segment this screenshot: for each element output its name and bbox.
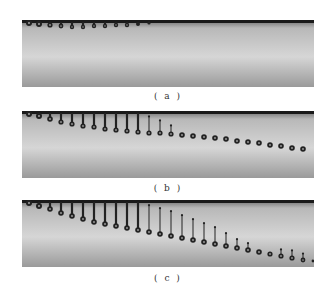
droplet: [36, 21, 42, 27]
caption-b: ( b ): [0, 183, 336, 193]
droplet: [278, 143, 284, 149]
droplet: [300, 146, 306, 152]
droplet: [136, 22, 140, 26]
panel-c-image: [22, 200, 314, 267]
droplet: [26, 111, 32, 117]
droplet: [267, 142, 273, 148]
caption-a: ( a ): [0, 91, 336, 101]
droplet: [26, 200, 32, 206]
droplet-sequence-b: [22, 111, 314, 178]
droplet: [190, 133, 196, 139]
droplet: [245, 139, 251, 145]
droplet: [289, 145, 295, 151]
panel-b-image: [22, 111, 314, 178]
caption-c: ( c ): [0, 273, 336, 283]
droplet: [256, 140, 262, 146]
droplet: [267, 251, 272, 256]
droplet: [256, 249, 262, 255]
droplet: [223, 136, 229, 142]
droplet: [147, 21, 150, 24]
droplet: [201, 134, 207, 140]
panel-a-image: [22, 20, 314, 87]
droplet: [212, 135, 218, 141]
droplet: [36, 113, 42, 119]
droplet: [179, 132, 185, 138]
droplet-sequence-c: [22, 200, 314, 267]
droplet: [26, 20, 32, 26]
droplet: [234, 138, 240, 144]
droplet-sequence-a: [22, 20, 314, 87]
